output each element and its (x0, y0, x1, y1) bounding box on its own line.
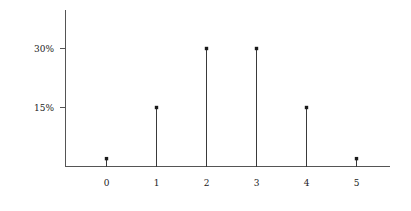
x-tick-label-0: 0 (104, 178, 110, 188)
x-tick-label-5: 5 (354, 178, 360, 188)
plot-canvas: 30% 15% 0 1 2 3 4 5 (0, 0, 411, 211)
x-tick-label-1: 1 (154, 178, 160, 188)
y-tick-label-15: 15% (34, 103, 54, 113)
stem-marker-5 (355, 157, 358, 160)
stem-marker-0 (105, 157, 108, 160)
x-tick-label-4: 4 (304, 178, 310, 188)
y-tick-label-30: 30% (34, 44, 54, 54)
stem-marker-4 (305, 106, 308, 109)
stem-marker-1 (155, 106, 158, 109)
x-tick-label-2: 2 (204, 178, 210, 188)
stem-plot-figure: 30% 15% 0 1 2 3 4 5 (0, 0, 411, 211)
x-tick-label-3: 3 (254, 178, 260, 188)
stem-series (105, 47, 358, 167)
stem-marker-2 (205, 47, 208, 50)
stem-marker-3 (255, 47, 258, 50)
